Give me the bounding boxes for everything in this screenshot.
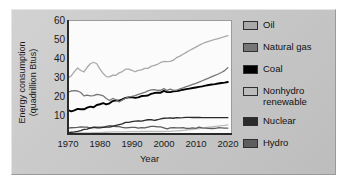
legend-swatch-coal [243,65,258,74]
series-line-nonhydro-renewable [68,125,228,133]
y-tick-30: 30 [45,73,65,83]
y-tick-60: 60 [45,16,65,26]
legend-item-nonhydro-renewable[interactable]: Nonhydro renewable [243,86,307,107]
y-axis-label: Energy consumption (quadrillion Btus) [17,23,38,143]
x-tick-1970: 1970 [51,139,85,149]
legend-item-oil[interactable]: Oil [243,20,275,31]
chart-legend: Oil Natural gas Coal Nonhydro renewable … [243,18,335,158]
series-line-oil [68,36,228,78]
legend-label-coal: Coal [263,64,283,75]
y-tick-40: 40 [45,54,65,64]
y-axis-ticks: 60 50 40 30 20 10 [42,0,65,192]
legend-label-hydro: Hydro [263,138,288,149]
x-axis-label: Year [68,153,231,164]
legend-swatch-natural-gas [243,43,258,52]
y-tick-50: 50 [45,35,65,45]
x-tick-1990: 1990 [115,139,149,149]
series-line-natural-gas [68,68,228,102]
legend-swatch-nonhydro-renewable [243,87,258,96]
y-axis-label-line2: (quadrillion Btus) [27,23,38,143]
legend-item-nuclear[interactable]: Nuclear [243,116,296,127]
series-line-nuclear [68,117,228,132]
plot-right-rule [231,20,232,135]
legend-item-hydro[interactable]: Hydro [243,138,288,149]
x-tick-2020: 2020 [211,139,245,149]
x-tick-1980: 1980 [83,139,117,149]
plot-area [68,21,231,133]
x-tick-2000: 2000 [147,139,181,149]
y-tick-20: 20 [45,92,65,102]
legend-swatch-oil [243,21,258,30]
plot-top-rule [67,20,232,21]
y-tick-10: 10 [45,111,65,121]
legend-label-nuclear: Nuclear [263,116,296,127]
series-line-coal [68,82,228,111]
legend-label-natural-gas: Natural gas [263,42,312,53]
y-axis-label-line1: Energy consumption [17,23,28,143]
x-tick-2010: 2010 [179,139,213,149]
legend-item-coal[interactable]: Coal [243,64,283,75]
x-axis-line [67,133,232,135]
legend-label-oil: Oil [263,20,275,31]
energy-consumption-chart-figure: Energy consumption (quadrillion Btus) 60… [0,0,353,192]
legend-swatch-hydro [243,139,258,148]
y-axis-line [67,20,69,135]
legend-label-nonhydro-renewable: Nonhydro renewable [263,86,307,107]
legend-item-natural-gas[interactable]: Natural gas [243,42,312,53]
legend-swatch-nuclear [243,117,258,126]
series-lines [68,21,231,133]
